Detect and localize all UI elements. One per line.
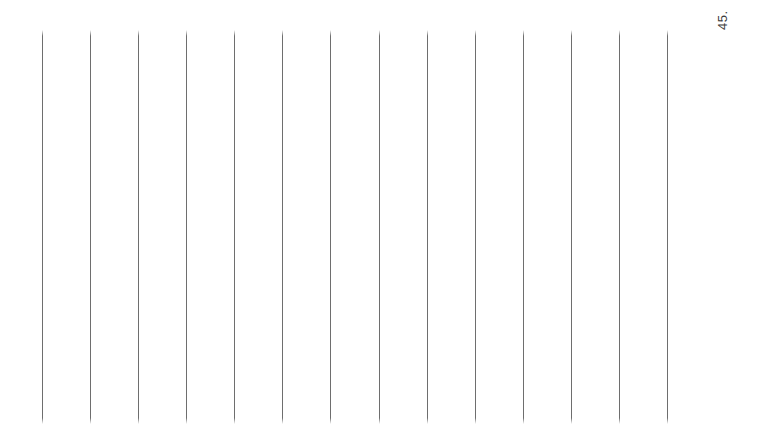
rule-line: [186, 30, 187, 424]
rule-line: [475, 30, 476, 424]
page-number: 45.: [716, 10, 729, 30]
rule-line: [427, 30, 428, 424]
rule-line: [234, 30, 235, 424]
rule-line: [138, 30, 139, 424]
rule-line: [330, 30, 331, 424]
rule-line: [42, 30, 43, 424]
rule-line: [619, 30, 620, 424]
rule-line: [379, 30, 380, 424]
rule-line-group: [0, 0, 762, 437]
rule-line: [523, 30, 524, 424]
rule-line: [90, 30, 91, 424]
rule-line: [667, 30, 668, 424]
rule-line: [571, 30, 572, 424]
scanned-page: 45.: [0, 0, 762, 437]
rule-line: [282, 30, 283, 424]
